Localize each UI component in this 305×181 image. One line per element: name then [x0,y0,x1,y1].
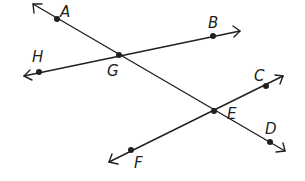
line-AD [33,4,285,151]
label-F: F [134,154,143,172]
point-D [267,139,273,145]
line-FC [109,76,283,162]
label-C: C [254,67,265,85]
label-H: H [32,48,43,66]
point-E [211,108,217,114]
diagram-canvas: A B C D E F G H [0,0,305,181]
point-B [210,33,216,39]
label-G: G [107,62,119,80]
line-HB [24,31,240,76]
label-E: E [227,105,237,123]
point-H [36,69,42,75]
point-G [116,52,122,58]
label-D: D [265,120,277,138]
label-B: B [208,14,218,32]
point-F [128,147,134,153]
geometry-diagram: A B C D E F G H [0,0,305,181]
arrowhead-D-icon [276,143,285,152]
label-A: A [59,3,70,21]
